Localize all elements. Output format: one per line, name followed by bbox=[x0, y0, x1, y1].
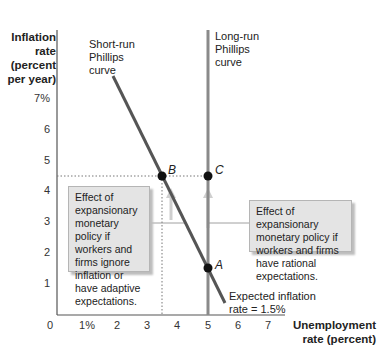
long-run-curve-label: Long-run Phillips curve bbox=[215, 30, 259, 69]
x-tick-6: 6 bbox=[226, 319, 250, 331]
point-a bbox=[204, 264, 213, 273]
y-axis-label: Inflation rate (percent per year) bbox=[7, 30, 56, 86]
y-tick-5: 5 bbox=[26, 154, 50, 166]
x-tick-1: 1% bbox=[75, 319, 99, 331]
point-b-label: B bbox=[168, 163, 176, 177]
x-tick-2: 2 bbox=[105, 319, 129, 331]
x-tick-5: 5 bbox=[196, 319, 220, 331]
x-tick-4: 4 bbox=[165, 319, 189, 331]
y-tick-3: 3 bbox=[26, 215, 50, 227]
x-tick-0: 0 bbox=[38, 319, 62, 331]
y-tick-1: 1 bbox=[26, 277, 50, 289]
point-c-label: C bbox=[215, 163, 224, 177]
point-b bbox=[158, 172, 167, 181]
note-adaptive-expectations: Effect of expansionary monetary policy i… bbox=[68, 186, 150, 272]
y-tick-2: 2 bbox=[26, 246, 50, 258]
x-tick-7: 7 bbox=[256, 319, 280, 331]
expected-inflation-label: Expected inflation rate = 1.5% bbox=[229, 290, 316, 316]
chart-canvas bbox=[0, 0, 378, 359]
point-c bbox=[204, 172, 213, 181]
x-tick-3: 3 bbox=[135, 319, 159, 331]
y-tick-6: 6 bbox=[26, 123, 50, 135]
y-tick-7: 7% bbox=[26, 92, 50, 104]
short-run-curve-label: Short-run Phillips curve bbox=[89, 38, 135, 77]
y-tick-4: 4 bbox=[26, 184, 50, 196]
x-axis-label: Unemployment rate (percent) bbox=[293, 318, 376, 346]
point-a-label: A bbox=[215, 258, 223, 272]
note-rational-expectations: Effect of expansionary monetary policy i… bbox=[249, 200, 352, 252]
movement-arrows bbox=[166, 188, 213, 228]
